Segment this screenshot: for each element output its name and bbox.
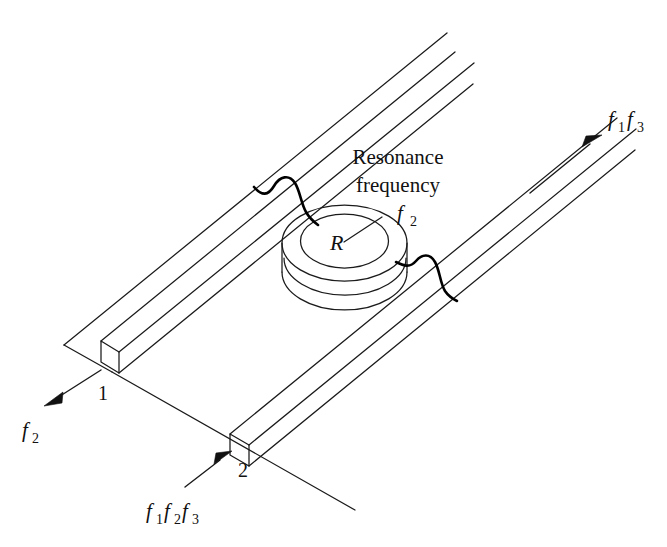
input-signal-label: f 1 f 2 f 3 <box>146 499 199 527</box>
through-signal-f3-sub: 3 <box>637 120 644 135</box>
substrate-front-edge <box>112 372 355 510</box>
upper-wg-end-face <box>101 341 119 373</box>
dropped-signal-arrow-head <box>44 392 63 406</box>
dropped-signal-arrow <box>44 370 101 406</box>
substrate-surface <box>64 33 447 510</box>
ring-bottom-inner-arc <box>284 258 406 295</box>
ring-resonator-diagram: Resonance frequency f 2 R 1 2 f 2 f 1 f … <box>0 0 667 547</box>
upper-wg-top-right-edge <box>119 63 474 352</box>
input-signal-arrow-head <box>214 451 232 464</box>
dropped-signal-label: f 2 <box>22 418 39 446</box>
port-2-label: 2 <box>238 459 248 481</box>
dropped-signal-arrow-line <box>57 370 101 398</box>
through-signal-label: f 1 f 3 <box>608 107 644 135</box>
figure-root: Resonance frequency f 2 R 1 2 f 2 f 1 f … <box>0 0 667 547</box>
lower-wg-side-bottom-edge <box>249 150 635 466</box>
upper-wg-side-bottom-edge <box>119 84 473 373</box>
resonance-label-line2: frequency <box>356 173 440 197</box>
substrate-left-edge <box>64 345 112 372</box>
input-signal-f1-sub: 1 <box>156 512 163 527</box>
resonance-frequency-symbol: f 2 <box>397 201 417 229</box>
dropped-signal-f1: f <box>22 418 31 442</box>
input-signal-f3: f <box>182 499 191 523</box>
input-signal-f1: f <box>146 499 155 523</box>
input-signal-f2: f <box>164 499 173 523</box>
through-signal-f3: f <box>627 107 636 131</box>
resonance-freq-f: f <box>397 201 406 225</box>
input-signal-f3-sub: 3 <box>192 512 199 527</box>
input-signal-arrow <box>185 451 232 487</box>
ring-resonator <box>282 205 407 310</box>
input-signal-f2-sub: 2 <box>174 512 181 527</box>
through-signal-arrow-head <box>582 135 602 147</box>
through-signal-arrow <box>530 135 602 193</box>
resonance-label-line1: Resonance <box>353 145 444 169</box>
port-1-label: 1 <box>98 382 108 404</box>
input-signal-arrow-line <box>185 460 220 487</box>
dropped-signal-f1-sub: 2 <box>32 431 39 446</box>
resonance-freq-sub: 2 <box>410 214 417 229</box>
radius-label: R <box>329 230 344 255</box>
ring-radius-line <box>344 217 382 242</box>
through-signal-f1-sub: 1 <box>618 120 625 135</box>
upper-ridge-waveguide <box>101 52 474 373</box>
through-signal-arrow-line <box>530 144 590 193</box>
